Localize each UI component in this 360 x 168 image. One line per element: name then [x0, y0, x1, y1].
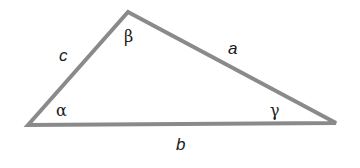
- side-label-b: b: [176, 136, 185, 153]
- angle-label-gamma: γ: [270, 103, 280, 119]
- angle-label-beta: β: [124, 29, 133, 45]
- angle-label-alpha: α: [56, 103, 67, 119]
- side-label-c: c: [59, 47, 68, 64]
- side-label-a: a: [228, 40, 237, 57]
- triangle-outline: [28, 12, 336, 125]
